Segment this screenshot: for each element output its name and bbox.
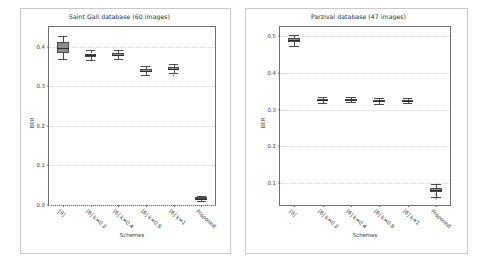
x-tick-mark (294, 205, 295, 207)
x-tick-mark (91, 205, 92, 207)
y-tick-label: 0.4 (267, 70, 276, 76)
y-tick-label: 0.1 (36, 162, 45, 168)
plot-area-right: 0.10.20.30.40.5[9][6] k=0.2[6] k=0.4[6] … (279, 26, 451, 206)
x-axis-label-left: Schemes (48, 232, 216, 238)
y-tick-label: 0.0 (36, 202, 45, 208)
y-axis-label-left: BER (29, 118, 35, 129)
x-tick-mark (323, 205, 324, 207)
cap-upper (431, 184, 441, 185)
boxplot-figure: Saint Gall database (60 images) BER Sche… (0, 0, 478, 262)
chart-title-right: Parzival database (47 images) (239, 13, 478, 20)
median-line (195, 199, 207, 200)
x-tick-mark (201, 205, 202, 207)
x-axis-label-right: Schemes (279, 232, 451, 238)
panel-parzival: Parzival database (47 images) BER Scheme… (239, 0, 478, 262)
x-tick-mark (63, 205, 64, 207)
x-tick-mark (174, 205, 175, 207)
panel-saint-gall: Saint Gall database (60 images) BER Sche… (0, 0, 239, 262)
plot-area-left: 0.00.10.20.30.4[9][6] k=0.2[6] k=0.4[6] … (48, 26, 216, 206)
y-axis-label-right: BER (260, 118, 266, 129)
x-tick-mark (118, 205, 119, 207)
y-tick-label: 0.3 (36, 83, 45, 89)
x-tick-mark (351, 205, 352, 207)
y-tick-label: 0.2 (36, 123, 45, 129)
y-tick-label: 0.3 (267, 107, 276, 113)
cap-lower (197, 201, 206, 202)
x-tick-mark (436, 205, 437, 207)
x-tick-mark (408, 205, 409, 207)
box-plot-glyph: ++ (280, 27, 450, 205)
y-tick-label: 0.4 (36, 44, 45, 50)
y-tick-label: 0.5 (267, 33, 276, 39)
chart-title-left: Saint Gall database (60 images) (0, 13, 239, 20)
outlier-marker: + (434, 197, 438, 202)
y-tick-label: 0.2 (267, 143, 276, 149)
x-tick-mark (379, 205, 380, 207)
y-tick-label: 0.1 (267, 180, 276, 186)
x-tick-mark (146, 205, 147, 207)
box-plot-glyph (49, 27, 215, 205)
y-gridline (49, 205, 215, 206)
